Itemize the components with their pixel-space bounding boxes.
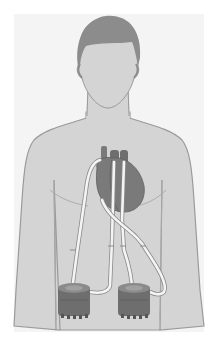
ventricular-assist-device-illustration bbox=[0, 0, 216, 337]
torso bbox=[14, 112, 204, 330]
pump-right bbox=[118, 283, 150, 319]
illustration: Human torso illustration with heart conn… bbox=[0, 0, 216, 337]
pump-left bbox=[58, 283, 90, 319]
